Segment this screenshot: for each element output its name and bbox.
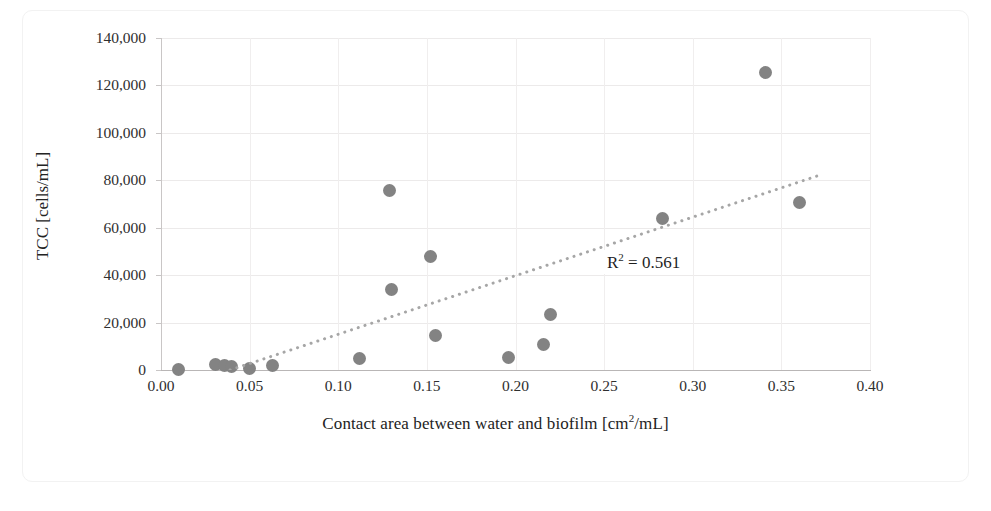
- data-point: [172, 363, 185, 376]
- gridline-vertical: [516, 38, 517, 370]
- y-axis-tick-mark: [156, 180, 161, 181]
- x-axis-title-main: Contact area between water and biofilm […: [322, 414, 628, 433]
- x-axis-tick-label: 0.25: [591, 378, 618, 394]
- x-axis-tick-label: 0.40: [856, 378, 883, 394]
- y-axis-tick-label: 100,000: [62, 125, 146, 141]
- y-axis-tick-label: 120,000: [62, 78, 146, 94]
- y-axis-tick-label: 140,000: [62, 30, 146, 46]
- scatter-chart: 020,00040,00060,00080,000100,000120,0001…: [0, 0, 991, 511]
- data-point: [502, 351, 515, 364]
- y-axis-tick-mark: [156, 228, 161, 229]
- gridline-vertical: [693, 38, 694, 370]
- r-squared-annotation: R2 = 0.561: [604, 250, 683, 274]
- x-axis-title: Contact area between water and biofilm […: [0, 412, 991, 434]
- gridline-vertical: [870, 38, 871, 370]
- gridline-vertical: [250, 38, 251, 370]
- gridline-vertical: [781, 38, 782, 370]
- y-axis-tick-label: 60,000: [62, 220, 146, 236]
- x-axis-tick-label: 0.00: [147, 378, 174, 394]
- data-point: [793, 196, 806, 209]
- y-axis-tick-label: 0: [62, 362, 146, 378]
- y-axis-tick-label: 40,000: [62, 267, 146, 283]
- data-point: [429, 329, 442, 342]
- data-point: [385, 283, 398, 296]
- y-axis-tick-label: 20,000: [62, 315, 146, 331]
- x-axis-tick-label: 0.20: [502, 378, 529, 394]
- gridline-vertical: [427, 38, 428, 370]
- plot-area: [161, 38, 870, 370]
- data-point: [656, 212, 669, 225]
- data-point: [266, 359, 279, 372]
- gridline-vertical: [604, 38, 605, 370]
- x-axis-tick-label: 0.35: [768, 378, 795, 394]
- y-axis-tick-label: 80,000: [62, 173, 146, 189]
- x-axis-tick-label: 0.15: [413, 378, 440, 394]
- data-point: [424, 250, 437, 263]
- y-axis-tick-mark: [156, 133, 161, 134]
- y-axis-tick-mark: [156, 370, 161, 371]
- y-axis-tick-mark: [156, 38, 161, 39]
- x-axis-title-tail: /mL]: [634, 414, 668, 433]
- y-axis-title: TCC [cells/mL]: [33, 101, 53, 311]
- y-axis-tick-mark: [156, 323, 161, 324]
- x-axis-tick-label: 0.30: [679, 378, 706, 394]
- x-axis-tick-label: 0.10: [325, 378, 352, 394]
- x-axis-tick-label: 0.05: [236, 378, 263, 394]
- y-axis-tick-mark: [156, 275, 161, 276]
- r-squared-text-tail: = 0.561: [624, 253, 680, 272]
- y-axis-line: [161, 38, 162, 371]
- gridline-vertical: [338, 38, 339, 370]
- r-squared-text-main: R: [607, 253, 618, 272]
- y-axis-tick-mark: [156, 85, 161, 86]
